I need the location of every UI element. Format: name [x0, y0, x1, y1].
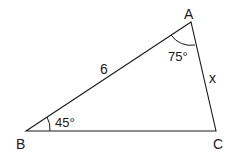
vertex-label-b: B — [16, 136, 25, 152]
side-label-ac: x — [209, 70, 216, 86]
angle-arc-a — [171, 35, 195, 45]
angle-label-a: 75° — [168, 49, 188, 64]
triangle-diagram: A B C 6 x 75° 45° — [0, 0, 237, 157]
triangle-svg: A B C 6 x 75° 45° — [0, 0, 237, 157]
vertex-label-a: A — [184, 6, 194, 22]
angle-arc-b — [47, 117, 50, 131]
side-label-ab: 6 — [100, 61, 108, 77]
vertex-label-c: C — [213, 136, 223, 152]
angle-label-b: 45° — [55, 115, 75, 130]
